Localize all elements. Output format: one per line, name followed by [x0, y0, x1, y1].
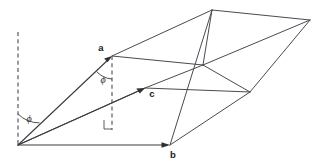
right-angle-marker: [104, 120, 112, 129]
edge-c-extension: [145, 65, 203, 88]
vector-c-arrowhead: [136, 88, 145, 93]
vector-a-arrowhead: [104, 56, 112, 62]
parallelepiped-diagram: a b c ϕ ϕ: [0, 0, 320, 163]
angle-arcs: [18, 72, 112, 123]
edge-a-to-aright: [112, 56, 203, 65]
edge-midright-to-aright: [203, 65, 250, 92]
edge-c-to-midright: [145, 88, 250, 92]
edge-a-to-top: [112, 10, 212, 56]
label-angle-at-a: ϕ: [100, 74, 105, 85]
cell-edges: [18, 10, 310, 145]
label-vector-b: b: [170, 149, 176, 160]
label-vector-a: a: [98, 42, 104, 53]
edge-b-to-midright: [170, 92, 250, 145]
vector-b-arrowhead: [162, 142, 171, 147]
figure-root: a b c ϕ ϕ: [0, 0, 320, 163]
edge-top-to-topright: [212, 10, 310, 20]
vector-c-line: [18, 89, 143, 145]
lattice-vectors: [18, 56, 170, 148]
vector-a-line: [18, 58, 110, 145]
label-vector-c: c: [149, 88, 154, 99]
edge-b-to-top: [170, 10, 212, 145]
edge-aright-to-top: [203, 10, 212, 65]
edge-midright-to-topright: [250, 20, 310, 92]
edge-aright-to-topright: [203, 20, 310, 65]
right-angle-square: [104, 120, 112, 129]
label-angle-origin: ϕ: [26, 113, 31, 124]
